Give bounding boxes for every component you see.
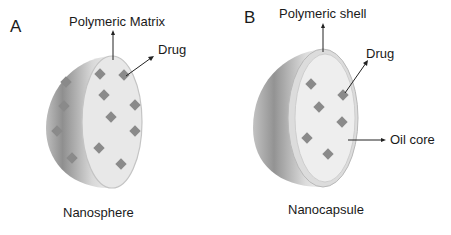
oil-core — [295, 54, 355, 182]
diagram-canvas — [0, 0, 451, 235]
nanosphere-cut-face — [82, 56, 142, 188]
drug-arrow-a — [126, 58, 151, 76]
panel-a-letter: A — [10, 17, 21, 37]
drug-label-a: Drug — [158, 42, 186, 57]
polymeric-matrix-label: Polymeric Matrix — [69, 14, 165, 29]
nanosphere-figure — [46, 30, 154, 188]
nanosphere-caption: Nanosphere — [63, 205, 134, 220]
panel-b-letter: B — [244, 8, 255, 28]
polymeric-shell-label: Polymeric shell — [279, 6, 366, 21]
drug-label-b: Drug — [366, 46, 394, 61]
nanocapsule-caption: Nanocapsule — [288, 202, 364, 217]
oil-core-label: Oil core — [390, 132, 435, 147]
